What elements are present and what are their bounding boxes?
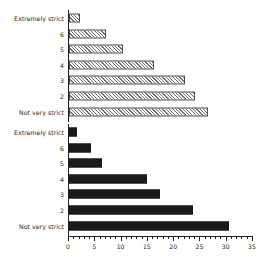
bar-bottom-not-very-strict <box>69 221 229 230</box>
x-tick-minor <box>210 236 211 239</box>
bar-top-2 <box>69 92 195 101</box>
x-tick-minor <box>157 236 158 239</box>
y-label-6: 6 <box>0 30 64 37</box>
x-tick-major <box>94 236 95 241</box>
x-tick-major <box>173 236 174 241</box>
x-tick-minor <box>231 236 232 239</box>
x-tick-minor <box>241 236 242 239</box>
x-tick-label: 15 <box>143 243 151 250</box>
y-label-4: 4 <box>0 61 64 68</box>
x-tick-minor <box>215 236 216 239</box>
x-tick-minor <box>247 236 248 239</box>
plot-area-top <box>68 10 258 122</box>
bar-bottom-2 <box>69 206 193 215</box>
bar-top-3 <box>69 76 185 85</box>
x-tick-minor <box>89 236 90 239</box>
bar-top-4 <box>69 60 154 69</box>
x-tick-minor <box>105 236 106 239</box>
x-tick-minor <box>236 236 237 239</box>
bar-bottom-extremely-strict <box>69 128 77 137</box>
bar-top-not-very-strict <box>69 107 208 116</box>
x-tick-minor <box>100 236 101 239</box>
chart-panel-bottom: Extremely strict 6 5 4 3 2 Not very stri… <box>0 124 264 236</box>
x-tick-minor <box>178 236 179 239</box>
y-label-2-2: 2 <box>0 207 64 214</box>
y-axis-labels-bottom: Extremely strict 6 5 4 3 2 Not very stri… <box>0 124 64 236</box>
bar-bottom-3 <box>69 190 160 199</box>
bar-bottom-5 <box>69 159 102 168</box>
x-tick-label: 10 <box>117 243 125 250</box>
x-tick-minor <box>168 236 169 239</box>
x-tick-minor <box>131 236 132 239</box>
x-tick-minor <box>136 236 137 239</box>
x-tick-minor <box>115 236 116 239</box>
y-label-extremely-strict: Extremely strict <box>0 15 64 22</box>
x-tick-minor <box>220 236 221 239</box>
bar-bottom-6 <box>69 143 91 152</box>
x-tick-label: 30 <box>222 243 230 250</box>
y-label-2: 2 <box>0 93 64 100</box>
x-tick-major <box>68 236 69 241</box>
x-tick-minor <box>184 236 185 239</box>
x-tick-major <box>121 236 122 241</box>
y-label-5-2: 5 <box>0 160 64 167</box>
x-tick-label: 35 <box>248 243 256 250</box>
x-tick-minor <box>73 236 74 239</box>
x-tick-major <box>226 236 227 241</box>
x-tick-minor <box>205 236 206 239</box>
bar-bottom-4 <box>69 174 147 183</box>
plot-area-bottom <box>68 124 258 236</box>
x-tick-major <box>199 236 200 241</box>
bar-top-5 <box>69 45 123 54</box>
y-label-not-very-strict: Not very strict <box>0 108 64 115</box>
bar-top-extremely-strict <box>69 14 80 23</box>
y-label-not-very-strict-2: Not very strict <box>0 222 64 229</box>
bar-top-6 <box>69 29 106 38</box>
x-tick-major <box>252 236 253 241</box>
x-tick-minor <box>142 236 143 239</box>
y-label-3-2: 3 <box>0 191 64 198</box>
x-tick-minor <box>110 236 111 239</box>
x-tick-minor <box>163 236 164 239</box>
x-axis-line <box>68 236 252 237</box>
x-tick-minor <box>84 236 85 239</box>
x-tick-minor <box>152 236 153 239</box>
x-tick-major <box>147 236 148 241</box>
y-label-3: 3 <box>0 77 64 84</box>
chart-panel-top: Extremely strict 6 5 4 3 2 Not very stri… <box>0 10 264 122</box>
figure-two-bar-charts: Extremely strict 6 5 4 3 2 Not very stri… <box>0 0 264 261</box>
x-axis: 05101520253035 <box>68 236 258 258</box>
x-tick-label: 5 <box>92 243 96 250</box>
x-tick-minor <box>126 236 127 239</box>
y-label-4-2: 4 <box>0 175 64 182</box>
x-tick-label: 20 <box>169 243 177 250</box>
y-label-extremely-strict-2: Extremely strict <box>0 129 64 136</box>
x-tick-minor <box>194 236 195 239</box>
y-label-5: 5 <box>0 46 64 53</box>
x-tick-label: 25 <box>195 243 203 250</box>
y-axis-labels-top: Extremely strict 6 5 4 3 2 Not very stri… <box>0 10 64 122</box>
x-tick-minor <box>189 236 190 239</box>
x-tick-minor <box>79 236 80 239</box>
y-label-6-2: 6 <box>0 144 64 151</box>
x-tick-label: 0 <box>66 243 70 250</box>
